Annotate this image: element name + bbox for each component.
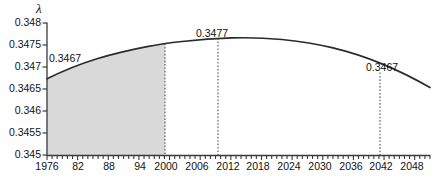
y-tick-label-0.345: 0.345 xyxy=(0,149,41,160)
y-tick-label-0.347: 0.347 xyxy=(0,61,41,72)
y-axis-ticks xyxy=(43,23,48,155)
y-tick-label-0.3455: 0.3455 xyxy=(0,127,41,138)
y-axis-title: λ xyxy=(36,1,42,17)
chart-container: λ 0.348 0.3475 0.347 0.3465 0.346 0.3455… xyxy=(0,0,438,181)
data-label-start: 0.3467 xyxy=(49,52,81,64)
y-tick-label-0.3475: 0.3475 xyxy=(0,39,41,50)
reference-lines xyxy=(165,38,380,155)
data-label-end: 0.3467 xyxy=(366,61,398,73)
y-tick-label-0.3465: 0.3465 xyxy=(0,83,41,94)
x-tick-label-2048: 2048 xyxy=(392,161,432,172)
data-label-peak: 0.3477 xyxy=(196,27,228,39)
y-tick-label-0.346: 0.346 xyxy=(0,105,41,116)
y-tick-label-0.348: 0.348 xyxy=(0,17,41,28)
